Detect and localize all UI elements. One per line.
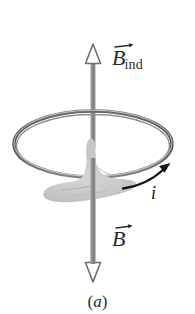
vector-arrow-icon	[115, 223, 133, 231]
axis-shaft-upper	[91, 60, 96, 148]
caption-close-paren: )	[102, 292, 108, 311]
axis-shaft-front-overlay	[91, 158, 96, 264]
arrowhead-up-icon	[86, 44, 101, 64]
hand-palm-shape	[43, 159, 136, 202]
label-b-induced: B ind	[112, 47, 144, 69]
vector-arrow-icon	[114, 42, 134, 50]
label-current: i	[151, 184, 156, 202]
arrowhead-down-icon	[86, 263, 101, 283]
caption-letter: a	[93, 292, 102, 311]
b-induced-subscript: ind	[124, 57, 143, 72]
right-hand-silhouette	[43, 139, 136, 203]
label-b-field: B	[112, 228, 125, 250]
physics-figure: B ind B i (a)	[0, 0, 195, 314]
axis-arrow-up	[86, 44, 101, 148]
figure-caption: (a)	[0, 292, 195, 312]
b-field-vector-symbol: B	[112, 228, 125, 250]
figure-canvas	[0, 0, 195, 314]
